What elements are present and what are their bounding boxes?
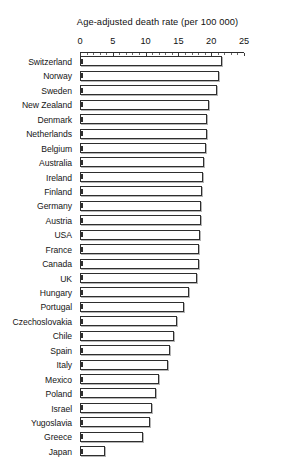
category-axis-labels: SwitzerlandNorwaySwedenNew ZealandDenmar… — [0, 55, 76, 459]
bar — [80, 374, 159, 384]
category-label: Chile — [0, 329, 76, 343]
bar-row — [80, 185, 244, 199]
x-tick-label: 0 — [77, 36, 82, 46]
bar-row — [80, 214, 244, 228]
bar-row — [80, 387, 244, 401]
bar — [80, 100, 209, 110]
bar-rows — [80, 55, 244, 459]
bar — [80, 259, 199, 269]
category-label: Australia — [0, 156, 76, 170]
category-label: Spain — [0, 344, 76, 358]
bar — [80, 388, 156, 398]
category-label: Belgium — [0, 142, 76, 156]
category-label: Ireland — [0, 171, 76, 185]
bar-row — [80, 445, 244, 459]
bar-row — [80, 156, 244, 170]
bar-row — [80, 272, 244, 286]
bar — [80, 201, 201, 211]
bar — [80, 114, 207, 124]
x-axis-line — [80, 52, 244, 53]
category-label: Czechoslovakia — [0, 315, 76, 329]
bar-row — [80, 98, 244, 112]
bar — [80, 432, 143, 442]
bar — [80, 215, 201, 225]
bar — [80, 71, 219, 81]
category-label: Poland — [0, 387, 76, 401]
bar-row — [80, 113, 244, 127]
category-label: Sweden — [0, 84, 76, 98]
bar — [80, 287, 189, 297]
bar — [80, 331, 174, 341]
category-label: Yugoslavia — [0, 416, 76, 430]
category-label: Hungary — [0, 286, 76, 300]
x-axis-tick-labels: 0510152025 — [0, 36, 287, 50]
category-label: Mexico — [0, 373, 76, 387]
bar-row — [80, 171, 244, 185]
category-label: Denmark — [0, 113, 76, 127]
category-label: UK — [0, 272, 76, 286]
bar — [80, 244, 199, 254]
category-label: Greece — [0, 430, 76, 444]
bar-row — [80, 373, 244, 387]
bar — [80, 172, 203, 182]
bar — [80, 302, 184, 312]
bar-row — [80, 257, 244, 271]
category-label: Switzerland — [0, 55, 76, 69]
bar-row — [80, 358, 244, 372]
bar-row — [80, 69, 244, 83]
bar-row — [80, 55, 244, 69]
bar — [80, 273, 197, 283]
bar-row — [80, 228, 244, 242]
x-tick-label: 5 — [110, 36, 115, 46]
bar-row — [80, 142, 244, 156]
bar-row — [80, 199, 244, 213]
bar-row — [80, 329, 244, 343]
category-label: Japan — [0, 445, 76, 459]
category-label: Canada — [0, 257, 76, 271]
bar — [80, 403, 152, 413]
category-label: Israel — [0, 402, 76, 416]
category-label: New Zealand — [0, 98, 76, 112]
x-tick-label: 15 — [173, 36, 183, 46]
bar — [80, 143, 206, 153]
bar-row — [80, 243, 244, 257]
bar-row — [80, 402, 244, 416]
bar — [80, 360, 168, 370]
bar — [80, 230, 200, 240]
category-label: Austria — [0, 214, 76, 228]
category-label: USA — [0, 228, 76, 242]
bar-row — [80, 84, 244, 98]
category-label: Netherlands — [0, 127, 76, 141]
bar — [80, 316, 177, 326]
x-tick-label: 10 — [140, 36, 150, 46]
bar-row — [80, 286, 244, 300]
bar-row — [80, 127, 244, 141]
category-label: France — [0, 243, 76, 257]
category-label: Portugal — [0, 300, 76, 314]
bar — [80, 129, 207, 139]
bar — [80, 85, 217, 95]
x-tick-major — [244, 53, 245, 56]
bar-row — [80, 315, 244, 329]
category-label: Norway — [0, 69, 76, 83]
bar — [80, 186, 202, 196]
plot-area — [80, 52, 244, 427]
bar — [80, 345, 170, 355]
chart-title: Age-adjusted death rate (per 100 000) — [0, 17, 287, 27]
bar — [80, 446, 105, 456]
category-label: Italy — [0, 358, 76, 372]
bar-row — [80, 430, 244, 444]
bar-row — [80, 416, 244, 430]
bar-row — [80, 300, 244, 314]
bar — [80, 56, 222, 66]
category-label: Germany — [0, 199, 76, 213]
x-tick-label: 20 — [206, 36, 216, 46]
category-label: Finland — [0, 185, 76, 199]
x-tick-label: 25 — [239, 36, 249, 46]
bar-row — [80, 344, 244, 358]
bar — [80, 157, 204, 167]
bar — [80, 417, 150, 427]
